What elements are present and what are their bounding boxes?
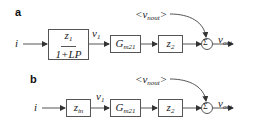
noise-arrow-a xyxy=(170,14,206,37)
block-z2-b: z2 xyxy=(158,99,183,117)
panel-label-a: a xyxy=(15,6,21,18)
noise-source-b: <vnout> xyxy=(135,74,167,87)
block-z1-lowpass-a: z1 1+LP xyxy=(48,29,89,60)
block-zin-b: zin xyxy=(66,99,91,117)
sum-symbol-b: Σ xyxy=(203,103,208,111)
node-v1-a: v1 xyxy=(92,28,100,41)
fraction-denominator: 1+LP xyxy=(56,47,82,60)
block-gm21-b: Gm21 xyxy=(110,99,141,117)
sum-symbol-a: Σ xyxy=(203,39,208,47)
block-z2-a: z2 xyxy=(158,35,183,53)
output-vout-b: vout xyxy=(218,98,232,111)
noise-arrow-b xyxy=(170,79,206,101)
noise-source-a: <vnout> xyxy=(135,9,167,22)
input-current-a: i xyxy=(15,38,18,49)
block-gm21-a: Gm21 xyxy=(110,35,141,53)
output-vout-a: vout xyxy=(218,34,232,47)
input-current-b: i xyxy=(34,102,37,113)
panel-label-b: b xyxy=(30,73,37,85)
fraction-numerator: z1 xyxy=(61,29,77,47)
node-v1-b: v1 xyxy=(96,91,104,104)
